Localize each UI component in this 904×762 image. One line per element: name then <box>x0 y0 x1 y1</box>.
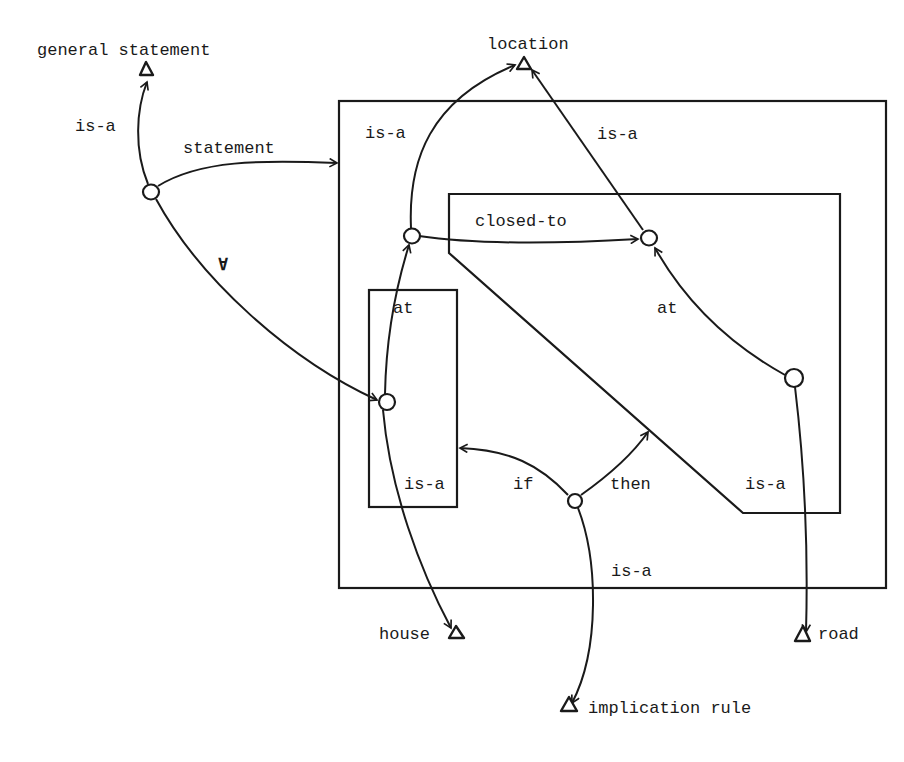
semantic-network-diagram: general statement location house road im… <box>0 0 904 762</box>
edge-label-isa-location-left: is-a <box>365 125 406 142</box>
node-location-1 <box>404 229 420 244</box>
concept-general-statement-triangle <box>140 62 153 75</box>
node-statement <box>143 185 159 200</box>
edge-label-at-right: at <box>657 300 677 317</box>
edge-isa-location-left <box>411 65 515 228</box>
concept-location-triangle <box>517 57 531 69</box>
label-road: road <box>818 626 859 643</box>
edge-isa-location-right <box>532 70 643 230</box>
label-location: location <box>487 36 569 53</box>
edge-label-isa-implication: is-a <box>611 563 652 580</box>
edge-label-statement: statement <box>183 140 275 157</box>
edge-label-at-left: at <box>393 300 413 317</box>
label-general-statement: general statement <box>37 42 210 59</box>
node-house-instance <box>379 394 395 410</box>
edge-isa-implication <box>572 508 593 703</box>
label-house: house <box>379 626 430 643</box>
edge-forall <box>156 199 377 400</box>
edge-label-if: if <box>513 476 533 493</box>
outer-space-box <box>339 101 886 588</box>
edge-label-then: then <box>610 476 651 493</box>
edge-label-isa-house: is-a <box>404 476 445 493</box>
edge-statement <box>158 162 337 186</box>
edge-at-left <box>385 245 409 394</box>
edge-label-closed-to: closed-to <box>475 213 567 230</box>
edge-label-forall: ∀ <box>218 257 228 274</box>
edge-isa-road <box>795 387 807 632</box>
edge-label-isa-road: is-a <box>745 476 786 493</box>
edge-label-isa-location-right: is-a <box>597 126 638 143</box>
node-implication-instance <box>568 494 582 508</box>
label-implication-rule: implication rule <box>588 700 751 717</box>
node-location-2 <box>641 231 657 246</box>
edge-isa-general-statement <box>138 82 148 184</box>
edge-label-isa-general: is-a <box>75 118 116 135</box>
edge-isa-house <box>383 410 451 628</box>
node-road-instance <box>785 369 803 387</box>
concept-road-triangle <box>795 626 810 641</box>
edge-closed-to <box>419 236 638 242</box>
